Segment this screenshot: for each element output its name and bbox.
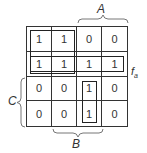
cell-r3-c3: 0 (102, 101, 127, 126)
cell-r0-c2: 0 (77, 27, 102, 52)
cell-r0-c0: 1 (27, 27, 52, 52)
cell-r1-c2: 1 (77, 52, 102, 77)
cell-r0-c3: 0 (102, 27, 127, 52)
variable-label-a: A (97, 2, 105, 16)
function-subscript: a (134, 72, 138, 79)
cell-r3-c1: 0 (52, 101, 77, 126)
cell-r2-c2: 1 (77, 77, 102, 102)
cell-r3-c0: 0 (27, 101, 52, 126)
cell-r2-c0: 0 (27, 77, 52, 102)
cell-r1-c1: 1 (52, 52, 77, 77)
cell-r2-c3: 0 (102, 77, 127, 102)
function-label: fa (131, 65, 138, 79)
cell-r3-c2: 1 (77, 101, 102, 126)
variable-label-c: C (8, 94, 17, 108)
cell-r0-c1: 1 (52, 27, 77, 52)
cell-r1-c3: 1 (102, 52, 127, 77)
kmap-grid: 1 1 0 0 1 1 1 1 0 0 1 0 0 0 1 0 (26, 26, 128, 127)
karnaugh-map: 1 1 0 0 1 1 1 1 0 0 1 0 0 0 1 0 (26, 26, 128, 127)
cell-r1-c0: 1 (27, 52, 52, 77)
cell-r2-c1: 0 (52, 77, 77, 102)
variable-label-b: B (72, 137, 80, 151)
brace-c (16, 77, 26, 128)
